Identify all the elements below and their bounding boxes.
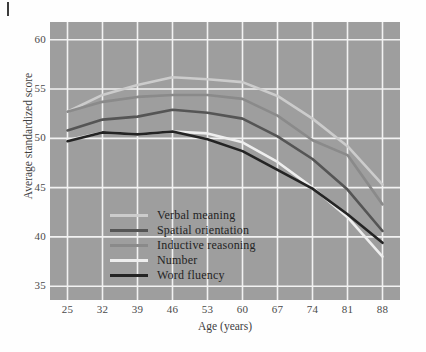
legend-swatch-icon [110,274,148,277]
x-tick-label: 67 [272,303,284,315]
legend-label: Number [157,253,198,268]
chart-legend: Verbal meaningSpatial orientationInducti… [110,208,300,283]
x-tick-label: 53 [202,303,214,315]
series-line-inductive-reasoning [68,95,383,204]
legend-label: Verbal meaning [157,208,235,223]
y-tick-label: 55 [12,82,46,94]
figure-canvas: Average standardized score 354045505560 … [0,0,426,352]
legend-label: Word fluency [157,268,225,283]
y-tick-label: 40 [12,230,46,242]
legend-item: Inductive reasoning [110,238,300,253]
x-tick-label: 46 [167,303,179,315]
x-tick-label: 81 [342,303,354,315]
x-tick-label: 88 [377,303,389,315]
plot-area: Verbal meaningSpatial orientationInducti… [50,22,400,300]
x-tick-label: 32 [97,303,109,315]
y-tick-label: 50 [12,131,46,143]
x-axis-title: Age (years) [50,320,400,332]
legend-swatch-icon [110,229,148,232]
y-tick-label: 45 [12,181,46,193]
y-tick-label: 60 [12,33,46,45]
y-axis-tick-labels: 354045505560 [4,22,46,300]
x-axis-tick-labels: 25323946536067748188 [50,303,400,319]
legend-item: Verbal meaning [110,208,300,223]
legend-label: Spatial orientation [157,223,249,238]
legend-label: Inductive reasoning [157,238,256,253]
legend-swatch-icon [110,214,148,217]
x-tick-label: 25 [62,303,74,315]
x-tick-label: 39 [132,303,144,315]
x-tick-label: 60 [237,303,249,315]
x-tick-label: 74 [307,303,319,315]
series-line-verbal-meaning [68,77,383,184]
legend-swatch-icon [110,259,148,262]
legend-item: Spatial orientation [110,223,300,238]
corner-tick-mark [7,2,9,16]
y-tick-label: 35 [12,279,46,291]
legend-swatch-icon [110,244,148,247]
legend-item: Number [110,253,300,268]
legend-item: Word fluency [110,268,300,283]
